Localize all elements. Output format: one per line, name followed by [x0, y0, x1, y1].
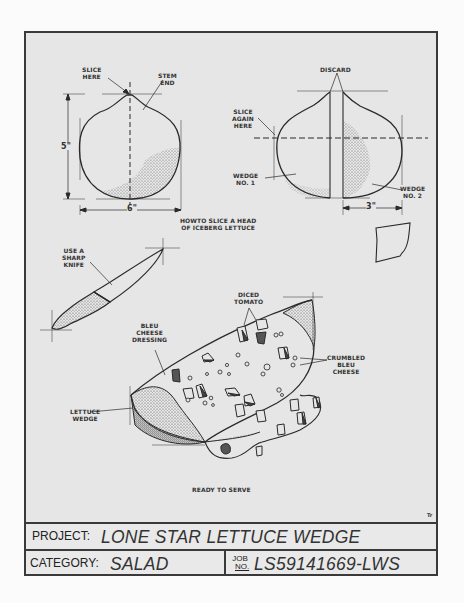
label-line: CRUMBLED	[327, 354, 365, 361]
label-discard: DISCARD	[320, 66, 351, 73]
caption-line: OF ICEBERG LETTUCE	[180, 224, 256, 231]
label-line: SLICE	[232, 108, 254, 115]
label-line: DRESSING	[132, 336, 167, 343]
label-use-sharp-knife: USE A SHARP KNIFE	[62, 247, 86, 268]
title-block-divider	[224, 551, 226, 576]
label-line: NO. 1	[233, 179, 258, 186]
title-block-category-row: CATEGORY: SALAD JOB NO. LS59141669-LWS	[24, 549, 438, 576]
label-line: CHEESE	[132, 329, 167, 336]
label-line: END	[158, 79, 177, 86]
label-line: DICED	[234, 291, 263, 298]
caption-line: HOWTO SLICE A HEAD	[180, 217, 256, 224]
category-label: CATEGORY:	[30, 556, 99, 570]
job-number-value: LS59141669-LWS	[254, 553, 400, 575]
lettuce-head-whole	[63, 78, 185, 215]
label-ready-to-serve: READY TO SERVE	[192, 486, 251, 493]
label-line: HERE	[232, 122, 254, 129]
label-slice-here: SLICE HERE	[82, 66, 101, 80]
label-line: SHARP	[62, 254, 86, 261]
label-line: KNIFE	[62, 261, 86, 268]
dimension-width: 6"	[127, 205, 137, 212]
wedge-piece	[376, 223, 410, 262]
technical-illustration	[0, 0, 464, 603]
project-label: PROJECT:	[32, 529, 90, 543]
label-diced-tomato: DICED TOMATO	[234, 291, 263, 305]
label-wedge-1: WEDGE NO. 1	[233, 172, 258, 186]
dimension-height: 5"	[61, 143, 71, 150]
diagram-caption: HOWTO SLICE A HEAD OF ICEBERG LETTUCE	[180, 217, 256, 231]
label-line: WEDGE	[233, 172, 258, 179]
label-line: TOMATO	[234, 298, 263, 305]
label-line: SLICE	[82, 66, 101, 73]
label-wedge-2: WEDGE NO. 2	[400, 185, 425, 199]
job-number-label: JOB NO.	[231, 555, 249, 571]
label-line: CHEESE	[327, 368, 365, 375]
label-line: AGAIN	[232, 115, 254, 122]
job-label-line: NO.	[231, 563, 249, 571]
label-line: BLEU	[327, 361, 365, 368]
label-stem-end: STEM END	[158, 72, 177, 86]
label-line: WEDGE	[70, 415, 100, 422]
label-line: LETTUCE	[70, 408, 100, 415]
label-slice-again-here: SLICE AGAIN HERE	[232, 108, 254, 129]
label-line: BLEU	[132, 322, 167, 329]
label-crumbled-bleu-cheese: CRUMBLED BLEU CHEESE	[327, 354, 365, 375]
label-lettuce-wedge: LETTUCE WEDGE	[70, 408, 100, 422]
label-line: HERE	[82, 73, 101, 80]
label-line: STEM	[158, 72, 177, 79]
dimension-wedge-width: 3"	[366, 203, 376, 210]
label-line: USE A	[62, 247, 86, 254]
salad-drawing	[90, 292, 327, 458]
artist-mark: Tr	[427, 512, 432, 518]
label-line: NO. 2	[400, 192, 425, 199]
category-value: SALAD	[110, 553, 169, 575]
title-block-project-row: PROJECT: LONE STAR LETTUCE WEDGE SALAD	[24, 522, 438, 550]
label-line: WEDGE	[400, 185, 425, 192]
label-bleu-cheese-dressing: BLEU CHEESE DRESSING	[132, 322, 167, 343]
